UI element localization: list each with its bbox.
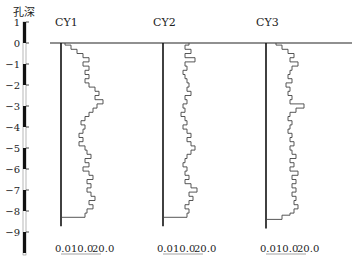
depth-bar-segment (23, 190, 26, 211)
x-tick-label: 0.0 (55, 243, 71, 254)
x-tick-label: 20.0 (92, 243, 114, 254)
depth-scale-bar: 10−1−2−3−4−5−6−7−8−9 (5, 17, 29, 256)
depth-bar-segment (23, 64, 26, 85)
panel-cy1: CY10.010.020.0 (55, 16, 114, 254)
x-tick-label: 10.0 (276, 243, 298, 254)
x-tick-label: 20.0 (297, 243, 319, 254)
depth-bar-segment (23, 232, 26, 253)
panels: CY10.010.020.0CY20.010.020.0CY30.010.020… (55, 16, 319, 254)
depth-tick-label: −9 (5, 227, 20, 238)
panel-title: CY1 (55, 16, 78, 29)
depth-bar-segment (23, 106, 26, 127)
depth-tick-label: −5 (5, 143, 20, 154)
depth-bar-outline (23, 22, 26, 255)
depth-tick-label: −4 (5, 122, 20, 133)
x-tick-label: 0.0 (260, 243, 276, 254)
x-tick-label: 0.0 (157, 243, 173, 254)
depth-tick-label: −2 (5, 80, 20, 91)
depth-tick-label: −8 (5, 206, 20, 217)
profile-line (163, 43, 197, 217)
depth-bar-segment (23, 22, 26, 43)
depth-bar-segment (23, 148, 26, 169)
depth-tick-label: −6 (5, 164, 20, 175)
depth-tick-label: −3 (5, 101, 20, 112)
panel-title: CY3 (256, 16, 279, 29)
profile-line (61, 43, 103, 217)
depth-tick-label: −7 (5, 185, 20, 196)
panel-cy3: CY30.010.020.0 (256, 16, 319, 254)
depth-axis-title: 孔深 (13, 6, 35, 19)
panel-cy2: CY20.010.020.0 (153, 16, 216, 254)
x-tick-label: 20.0 (194, 243, 216, 254)
depth-tick-label: −1 (5, 59, 20, 70)
depth-tick-label: 0 (14, 38, 20, 49)
x-tick-label: 10.0 (173, 243, 195, 254)
panel-title: CY2 (153, 16, 176, 29)
depth-profile-chart: 10−1−2−3−4−5−6−7−8−9 孔深 CY10.010.020.0CY… (0, 0, 357, 265)
profile-line (266, 43, 304, 219)
x-tick-label: 10.0 (71, 243, 93, 254)
